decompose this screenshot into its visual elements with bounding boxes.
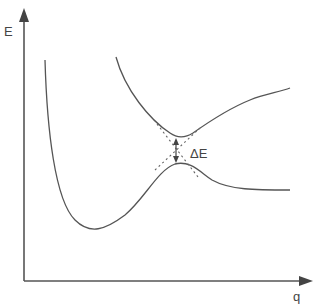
y-axis-arrow-icon xyxy=(19,8,29,22)
delta-e-arrow-icon xyxy=(173,138,179,163)
diagram-canvas xyxy=(0,0,318,308)
gap-label: ΔE xyxy=(190,147,207,160)
axes xyxy=(24,18,305,281)
x-axis-arrow-icon xyxy=(299,276,313,286)
y-axis-label: E xyxy=(4,25,13,38)
x-axis-label: q xyxy=(293,290,300,303)
lower-curve xyxy=(45,60,290,229)
upper-curve xyxy=(116,57,290,137)
